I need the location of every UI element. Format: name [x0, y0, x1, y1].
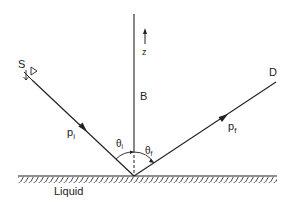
incident-angle-label: θi — [116, 138, 124, 150]
z-label: z — [142, 47, 147, 57]
final-momentum-label: pf — [228, 120, 237, 135]
reflected-arrow-icon — [219, 114, 229, 122]
reflected-ray — [134, 82, 276, 176]
surface-label: Liquid — [54, 185, 83, 197]
reflection-diagram: S D z B pi pf θi θf Liquid — [0, 0, 292, 206]
z-axis-arrow-icon — [143, 28, 147, 44]
field-label: B — [140, 90, 147, 102]
source-icon — [24, 67, 38, 80]
liquid-surface — [18, 176, 277, 183]
detector-label: D — [269, 66, 277, 78]
incident-momentum-label: pi — [67, 126, 75, 141]
final-angle-label: θf — [145, 145, 153, 157]
source-label: S — [18, 58, 25, 70]
